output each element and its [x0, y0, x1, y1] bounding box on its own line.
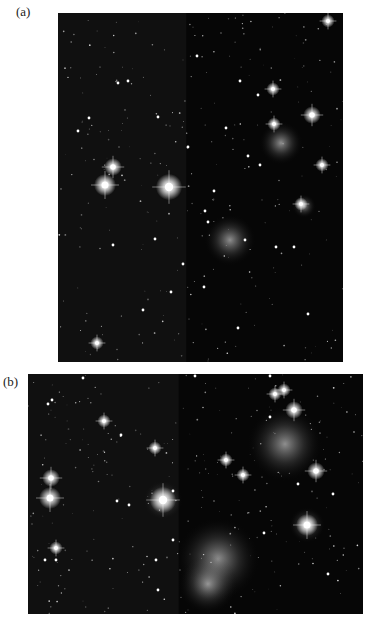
star-field-graphic [28, 374, 363, 614]
star-field-photo-a [58, 13, 343, 362]
panel-label-a: (a) [16, 4, 30, 20]
star-field-photo-b [28, 374, 363, 614]
panel-label-b: (b) [3, 374, 18, 390]
star-field-graphic [58, 13, 343, 362]
